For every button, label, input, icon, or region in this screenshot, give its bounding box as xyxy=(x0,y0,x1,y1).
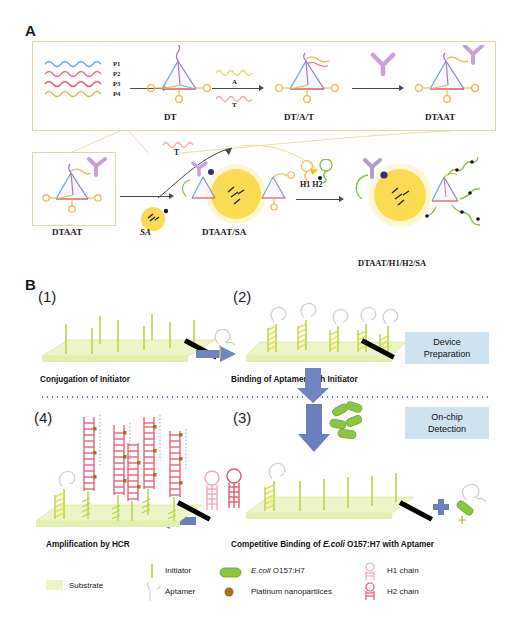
legend-icon-ecoli xyxy=(219,566,243,578)
plus-icon xyxy=(432,498,450,516)
antibody-icon xyxy=(368,52,398,76)
arrow-dt-to-dtat xyxy=(212,88,260,89)
tetrahedron-dt xyxy=(140,45,212,107)
step-number-1: (1) xyxy=(38,288,56,305)
arrow-label-t: T xyxy=(232,101,237,109)
badge-device-line1: Device xyxy=(433,337,461,347)
caption3-prefix: Competitive Binding of xyxy=(231,540,323,549)
product-label-dtaat: DTAAT xyxy=(425,112,455,122)
row2-label-dtaat-sa: DTAAT/SA xyxy=(202,227,246,237)
ecoli-group-icon xyxy=(328,401,372,445)
legend-label-aptamer: Aptamer xyxy=(165,587,195,596)
arrow-label-a: A xyxy=(232,78,237,86)
substrate-slab-4-hcr xyxy=(30,405,210,540)
tetrahedron-dtaat xyxy=(408,45,490,107)
row2-label-final: DTAAT/H1/H2/SA xyxy=(358,258,426,268)
arrow-dt-to-dtat-head xyxy=(259,85,264,91)
arrow-to-final xyxy=(296,199,340,200)
legend-label-substrate: Substrate xyxy=(69,581,103,590)
legend-icon-h1 xyxy=(363,562,379,582)
product-label-dt: DT xyxy=(164,112,177,122)
product-label-dt-a-t: DT/A/T xyxy=(284,112,314,122)
arrow-to-final-head xyxy=(339,196,344,202)
legend-icon-platinum xyxy=(223,586,237,598)
badge-onchip-line2: Detection xyxy=(428,424,466,434)
tetrahedron-dt-a-t xyxy=(268,45,340,107)
dtaat-sa-cluster xyxy=(178,160,298,226)
legend-label-initiator: Initiator xyxy=(165,566,191,575)
legend-label-h1: H1 chain xyxy=(387,566,419,575)
strand-label-p1: P1 xyxy=(113,60,120,67)
arrow-label-h1-h2: H1 H2 xyxy=(300,180,322,189)
legend-label-h2: H2 chain xyxy=(387,587,419,596)
arrow-to-dtaat xyxy=(352,88,400,89)
ecoli-aptamer-complex xyxy=(452,482,498,526)
row2-label-dtaat: DTAAT xyxy=(52,227,82,237)
strand-waves-group xyxy=(44,58,110,102)
panel-letter-b: B xyxy=(25,276,36,293)
legend-icon-aptamer xyxy=(144,582,160,602)
strand-a-wave xyxy=(215,66,259,78)
badge-device-line2: Preparation xyxy=(424,349,471,359)
badge-device-preparation: Device Preparation xyxy=(405,332,489,364)
substrate-slab-3 xyxy=(238,455,420,533)
final-complex-cluster xyxy=(348,155,508,245)
legend-swatch-substrate xyxy=(46,580,63,590)
figure-root: A P1 P2 P3 P4 DT A T xyxy=(0,0,513,630)
step-number-3: (3) xyxy=(233,409,251,426)
badge-onchip-detection: On-chip Detection xyxy=(405,407,489,439)
row2-label-sa: SA xyxy=(140,227,151,237)
badge-onchip-line1: On-chip xyxy=(431,412,463,422)
row2-label-t: T xyxy=(174,148,179,157)
arrow-to-dtaat-head xyxy=(399,85,404,91)
legend: Substrate Initiator Aptamer E.coli O157:… xyxy=(25,560,493,612)
step-caption-2: Binding of Aptamer with Initiator xyxy=(231,375,358,384)
legend-label-ecoli-rest: O157:H7 xyxy=(271,566,305,575)
step-caption-3: Competitive Binding of E.coli O157:H7 wi… xyxy=(231,540,434,549)
legend-icon-h2 xyxy=(363,582,379,602)
step-caption-1: Conjugation of Initiator xyxy=(40,375,130,384)
substrate-slab-2 xyxy=(206,300,406,372)
t-strand-wave xyxy=(162,138,202,150)
step-caption-4: Amplification by HCR xyxy=(46,540,130,549)
legend-label-ecoli-italic: E.coli xyxy=(251,566,271,575)
strand-label-p3: P3 xyxy=(113,80,120,87)
strand-label-p2: P2 xyxy=(113,70,120,77)
strand-t-wave xyxy=(215,92,259,104)
caption3-suffix: O157:H7 with Aptamer xyxy=(345,540,434,549)
legend-label-ecoli: E.coli O157:H7 xyxy=(251,566,305,575)
legend-label-platinum: Platinum nanopartilces xyxy=(251,587,332,596)
section-divider xyxy=(40,396,492,398)
caption3-italic: E.coli xyxy=(323,540,345,549)
legend-icon-initiator xyxy=(148,563,156,579)
blue-arrow-down-main xyxy=(296,368,330,404)
strand-label-p4: P4 xyxy=(113,90,120,97)
tetrahedron-dtaat-row2 xyxy=(36,155,112,219)
panel-letter-a: A xyxy=(25,22,36,39)
